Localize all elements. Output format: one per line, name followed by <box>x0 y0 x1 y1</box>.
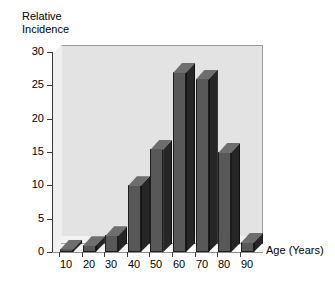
bar-front-face <box>173 72 186 252</box>
x-tick-mark <box>149 252 150 257</box>
chart-figure: Relative Incidence 051015202530 10203040… <box>0 0 335 287</box>
y-axis-line <box>52 52 53 253</box>
y-axis-title-line1: Relative <box>22 10 62 23</box>
y-tick-mark <box>47 52 52 53</box>
y-tick-label: 30 <box>18 45 44 57</box>
y-tick-mark <box>47 152 52 153</box>
bar-side-face <box>186 63 195 252</box>
bar-side-face <box>141 176 150 252</box>
bar-side-face <box>209 70 218 252</box>
y-tick-mark <box>47 85 52 86</box>
x-tick-mark <box>59 252 60 257</box>
bar-80 <box>218 143 240 252</box>
bar-90 <box>241 233 263 252</box>
bar-front-face <box>241 242 254 252</box>
bar-front-face <box>150 149 163 252</box>
bar-front-face <box>128 185 141 252</box>
bar-10 <box>60 240 82 252</box>
bar-front-face <box>105 235 118 252</box>
y-tick-label: 5 <box>18 212 44 224</box>
x-tick-mark <box>127 252 128 257</box>
y-tick-label: 15 <box>18 145 44 157</box>
y-tick-label: 10 <box>18 178 44 190</box>
x-tick-mark <box>240 252 241 257</box>
x-tick-label: 90 <box>234 258 260 270</box>
y-tick-label: 0 <box>18 245 44 257</box>
bar-side-face <box>163 140 172 252</box>
bar-60 <box>173 63 195 252</box>
y-tick-label: 20 <box>18 112 44 124</box>
y-tick-mark <box>47 119 52 120</box>
bar-30 <box>105 226 127 252</box>
x-axis-title: Age (Years) <box>266 244 324 256</box>
plot-left-wall <box>52 45 62 253</box>
bar-70 <box>196 70 218 252</box>
y-tick-label: 25 <box>18 78 44 90</box>
x-tick-mark <box>82 252 83 257</box>
bar-40 <box>128 176 150 252</box>
x-axis-line <box>52 252 263 253</box>
y-tick-mark <box>47 252 52 253</box>
x-tick-mark <box>104 252 105 257</box>
bar-front-face <box>196 79 209 252</box>
bar-side-face <box>231 143 240 252</box>
bar-50 <box>150 140 172 252</box>
x-tick-mark <box>195 252 196 257</box>
y-axis-title-line2: Incidence <box>22 23 69 36</box>
x-tick-mark <box>172 252 173 257</box>
y-tick-mark <box>47 219 52 220</box>
x-tick-mark <box>217 252 218 257</box>
bar-20 <box>83 236 105 252</box>
y-tick-mark <box>47 185 52 186</box>
bar-front-face <box>218 152 231 252</box>
